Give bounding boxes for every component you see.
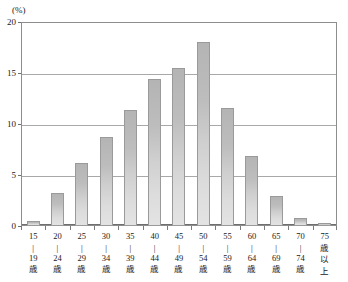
y-axis-tick-label: 15 bbox=[7, 69, 16, 78]
y-axis-tick-label: 5 bbox=[12, 171, 17, 180]
x-axis-category-label: 55|59歳 bbox=[215, 231, 239, 276]
y-axis-tick-mark bbox=[18, 175, 21, 176]
bar[interactable] bbox=[245, 156, 258, 226]
x-axis-category-labels: 15|19歳20|24歳25|29歳30|34歳35|39歳40|44歳45|4… bbox=[21, 231, 337, 282]
x-axis-category-label: 70|74歳 bbox=[288, 231, 312, 276]
bar-slot bbox=[167, 22, 191, 226]
x-axis-tick-mark bbox=[336, 226, 337, 230]
bar[interactable] bbox=[51, 193, 64, 226]
bar[interactable] bbox=[75, 163, 88, 226]
bar[interactable] bbox=[172, 68, 185, 226]
bar-slot bbox=[70, 22, 94, 226]
x-axis-category-label: 25|29歳 bbox=[70, 231, 94, 276]
x-axis-tick-mark bbox=[21, 226, 22, 230]
x-axis-tick-mark bbox=[167, 226, 168, 230]
bars-layer bbox=[21, 22, 337, 226]
x-axis-tick-mark bbox=[191, 226, 192, 230]
age-distribution-bar-chart: (%) 15|19歳20|24歳25|29歳30|34歳35|39歳40|44歳… bbox=[0, 0, 348, 282]
x-axis-category-label: 50|54歳 bbox=[191, 231, 215, 276]
y-axis-tick-mark bbox=[18, 22, 21, 23]
x-axis-tick-mark bbox=[264, 226, 265, 230]
bar[interactable] bbox=[197, 42, 210, 226]
x-axis-category-label: 20|24歳 bbox=[45, 231, 69, 276]
bar-slot bbox=[118, 22, 142, 226]
bar[interactable] bbox=[221, 108, 234, 226]
y-axis-tick-mark bbox=[18, 73, 21, 74]
bar-slot bbox=[215, 22, 239, 226]
bar[interactable] bbox=[124, 110, 137, 226]
x-axis-tick-mark bbox=[143, 226, 144, 230]
y-axis-tick-label: 10 bbox=[7, 120, 16, 129]
y-axis-tick-mark bbox=[18, 124, 21, 125]
x-axis-tick-mark bbox=[45, 226, 46, 230]
x-axis-category-label: 65|69歳 bbox=[264, 231, 288, 276]
x-axis-tick-mark bbox=[70, 226, 71, 230]
x-axis-category-label: 75歳以上 bbox=[313, 231, 337, 277]
x-axis-tick-mark bbox=[240, 226, 241, 230]
x-axis-tick-marks bbox=[21, 226, 337, 230]
y-axis-tick-label: 0 bbox=[12, 222, 17, 231]
y-axis-tick-mark bbox=[18, 226, 21, 227]
bar-slot bbox=[21, 22, 45, 226]
x-axis-category-label: 35|39歳 bbox=[118, 231, 142, 276]
bar-slot bbox=[45, 22, 69, 226]
bar-slot bbox=[191, 22, 215, 226]
x-axis-category-label: 30|34歳 bbox=[94, 231, 118, 276]
x-axis-tick-mark bbox=[94, 226, 95, 230]
x-axis-tick-mark bbox=[313, 226, 314, 230]
y-axis-unit-label: (%) bbox=[12, 5, 26, 16]
x-axis-category-label: 40|44歳 bbox=[143, 231, 167, 276]
x-axis-category-label: 60|64歳 bbox=[240, 231, 264, 276]
x-axis-tick-mark bbox=[118, 226, 119, 230]
bar[interactable] bbox=[294, 218, 307, 226]
x-axis-category-label: 15|19歳 bbox=[21, 231, 45, 276]
x-axis-category-label: 45|49歳 bbox=[167, 231, 191, 276]
x-axis-tick-mark bbox=[288, 226, 289, 230]
bar[interactable] bbox=[270, 196, 283, 226]
x-axis-tick-mark bbox=[215, 226, 216, 230]
bar[interactable] bbox=[148, 79, 161, 226]
bar-slot bbox=[264, 22, 288, 226]
y-axis-tick-label: 20 bbox=[7, 18, 16, 27]
bar-slot bbox=[94, 22, 118, 226]
bar[interactable] bbox=[100, 137, 113, 226]
bar-slot bbox=[240, 22, 264, 226]
bar-slot bbox=[143, 22, 167, 226]
bar-slot bbox=[288, 22, 312, 226]
bar-slot bbox=[313, 22, 337, 226]
